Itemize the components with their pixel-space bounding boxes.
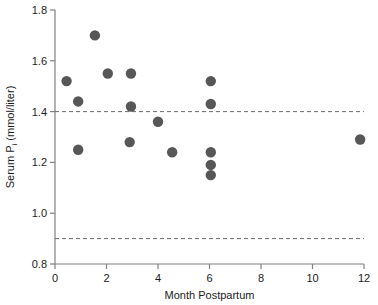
scatter-chart: 0.81.01.21.41.61.8024681012Month Postpar… bbox=[0, 0, 378, 305]
data-point bbox=[90, 30, 100, 40]
y-tick-label: 1.6 bbox=[32, 55, 47, 67]
data-point bbox=[206, 147, 216, 157]
data-point bbox=[73, 145, 83, 155]
y-tick-label: 0.8 bbox=[32, 258, 47, 270]
axis-lines bbox=[55, 10, 364, 264]
x-tick-label: 12 bbox=[358, 272, 370, 284]
data-point bbox=[206, 170, 216, 180]
data-point bbox=[355, 134, 365, 144]
data-point bbox=[126, 101, 136, 111]
data-point bbox=[124, 137, 134, 147]
data-point bbox=[153, 117, 163, 127]
data-point bbox=[206, 76, 216, 86]
x-tick-label: 2 bbox=[103, 272, 109, 284]
svg-text:Serum Pi (mmol/liter): Serum Pi (mmol/liter) bbox=[4, 86, 19, 189]
x-tick-label: 0 bbox=[52, 272, 58, 284]
y-tick-label: 1.4 bbox=[32, 106, 47, 118]
data-point bbox=[206, 99, 216, 109]
x-tick-label: 10 bbox=[306, 272, 318, 284]
y-axis-title: Serum Pi (mmol/liter) bbox=[4, 86, 19, 189]
y-tick-label: 1.8 bbox=[32, 4, 47, 16]
data-point bbox=[206, 160, 216, 170]
x-tick-label: 8 bbox=[258, 272, 264, 284]
y-tick-label: 1.2 bbox=[32, 156, 47, 168]
x-tick-label: 6 bbox=[206, 272, 212, 284]
y-tick-label: 1.0 bbox=[32, 207, 47, 219]
data-point bbox=[167, 147, 177, 157]
x-axis-title: Month Postpartum bbox=[165, 289, 255, 301]
data-point bbox=[103, 68, 113, 78]
data-point bbox=[61, 76, 71, 86]
x-tick-label: 4 bbox=[155, 272, 161, 284]
data-point bbox=[73, 96, 83, 106]
plot-area: 0.81.01.21.41.61.8024681012Month Postpar… bbox=[0, 0, 378, 305]
data-point bbox=[126, 68, 136, 78]
